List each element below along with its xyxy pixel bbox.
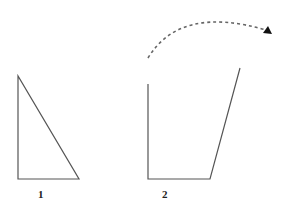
- arrowhead-icon: [263, 26, 272, 34]
- dashed-curve-arrow: [148, 22, 266, 58]
- shape-2-label: 2: [162, 188, 168, 200]
- shape-2-open-trapezoid: [148, 68, 240, 179]
- shape-1-triangle: [18, 76, 79, 179]
- diagram-canvas: [0, 0, 288, 211]
- shape-1-label: 1: [38, 188, 44, 200]
